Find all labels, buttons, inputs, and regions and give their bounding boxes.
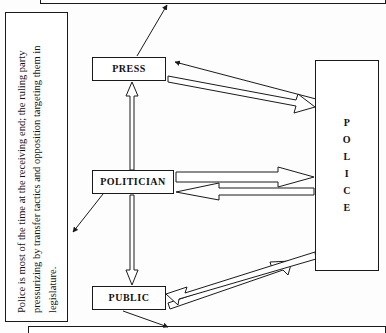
caption-rotor: Police is most of the time at the receiv…: [8, 19, 66, 315]
connector-police-to-politician: [176, 183, 314, 200]
connector-public-to-bottom-bar: [123, 311, 168, 327]
node-politician[interactable]: POLITICIAN: [92, 170, 174, 194]
police-letter-l: L: [343, 152, 350, 162]
police-letter-p: P: [344, 118, 351, 128]
node-public-label: PUBLIC: [109, 293, 150, 303]
police-letter-o: O: [343, 135, 351, 145]
connector-politician-to-press: [126, 82, 138, 170]
connector-politician-to-public: [126, 195, 138, 285]
police-letter-c: C: [343, 186, 351, 196]
connector-press-to-police: [168, 76, 315, 113]
node-politician-label: POLITICIAN: [100, 177, 166, 187]
node-press-label: PRESS: [112, 64, 146, 74]
connector-politician-to-caption: [73, 194, 103, 232]
node-public[interactable]: PUBLIC: [92, 286, 166, 310]
caption-box: Police is most of the time at the receiv…: [5, 12, 68, 322]
police-letter-i: I: [345, 169, 349, 179]
connector-press-to-top-bar: [137, 5, 167, 56]
police-letter-e: E: [343, 203, 350, 213]
node-press[interactable]: PRESS: [92, 57, 166, 81]
node-police[interactable]: P O L I C E: [315, 60, 379, 271]
connector-politician-to-police: [176, 167, 314, 187]
diagram-canvas: PRESS POLITICIAN PUBLIC P O L I C E Poli…: [0, 0, 386, 333]
caption-text: Police is most of the time at the receiv…: [14, 21, 60, 313]
